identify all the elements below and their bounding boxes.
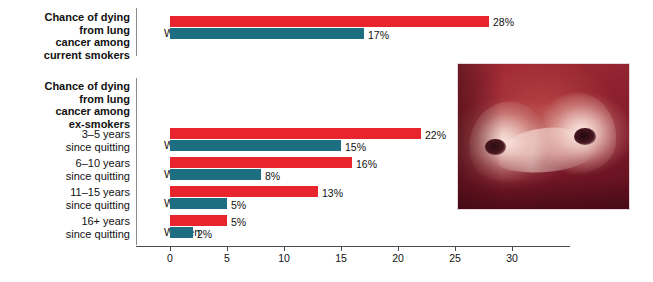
bar-value-women-current: 17% (368, 30, 389, 41)
bar-value-men-3-5: 22% (425, 130, 446, 141)
bar-women-3-5 (170, 140, 341, 151)
chart-container: Chance of dying from lung cancer among c… (0, 0, 653, 282)
x-axis-tick-label-5: 5 (215, 253, 239, 264)
bar-women-current (170, 28, 364, 39)
x-axis-tick-20 (398, 246, 399, 251)
category-label-11-15-years: 11–15 years since quitting (8, 186, 130, 211)
bar-value-men-11-15: 13% (322, 188, 343, 199)
bar-value-men-6-10: 16% (356, 159, 377, 170)
bar-men-current (170, 16, 489, 27)
category-label-6-10-years: 6–10 years since quitting (8, 157, 130, 182)
x-axis-tick-25 (455, 246, 456, 251)
category-label-16-plus-years: 16+ years since quitting (8, 215, 130, 240)
category-label-3-5-years: 3–5 years since quitting (8, 128, 130, 153)
bar-value-men-16-plus: 5% (231, 217, 246, 228)
x-axis-line (136, 246, 570, 247)
divider-line-bottom (136, 78, 137, 245)
bar-men-3-5 (170, 128, 421, 139)
bar-value-women-11-15: 5% (231, 200, 246, 211)
photo-shadow-bottom (458, 154, 629, 209)
bar-women-6-10 (170, 169, 261, 180)
bar-men-6-10 (170, 157, 352, 168)
bar-value-women-6-10: 8% (265, 171, 280, 182)
x-axis-tick-0 (170, 246, 171, 251)
bar-men-16-plus (170, 215, 227, 226)
bar-women-16-plus (170, 227, 193, 238)
x-axis-tick-label-0: 0 (158, 253, 182, 264)
bar-value-men-current: 28% (493, 17, 514, 28)
x-axis-tick-30 (512, 246, 513, 251)
x-axis-tick-label-25: 25 (443, 253, 467, 264)
bar-value-women-16-plus: 2% (197, 229, 212, 240)
divider-line-top (136, 8, 137, 56)
x-axis-tick-label-15: 15 (329, 253, 353, 264)
group-heading-current-smokers: Chance of dying from lung cancer among c… (8, 11, 130, 61)
x-axis-tick-5 (227, 246, 228, 251)
x-axis-tick-15 (341, 246, 342, 251)
x-axis-tick-10 (284, 246, 285, 251)
bronchoscopy-airway-photo (457, 63, 630, 210)
bar-women-11-15 (170, 198, 227, 209)
group-heading-ex-smokers: Chance of dying from lung cancer among e… (8, 80, 130, 130)
x-axis-tick-label-30: 30 (500, 253, 524, 264)
x-axis-tick-label-20: 20 (386, 253, 410, 264)
bar-men-11-15 (170, 186, 318, 197)
bar-value-women-3-5: 15% (345, 142, 366, 153)
x-axis-tick-label-10: 10 (272, 253, 296, 264)
